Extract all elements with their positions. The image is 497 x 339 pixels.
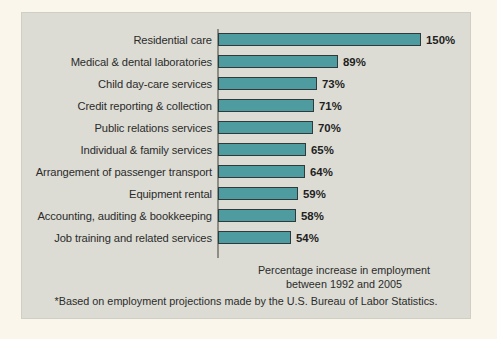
bar-value-label: 70% <box>318 118 341 138</box>
bar-row: Child day-care services 73% <box>22 73 470 95</box>
category-label: Equipment rental <box>22 183 212 205</box>
bar-value-label: 54% <box>296 228 319 248</box>
bar-value-label: 89% <box>343 52 366 72</box>
bar <box>218 209 296 222</box>
bar <box>218 231 291 244</box>
bar-row: Medical & dental laboratories 89% <box>22 51 470 73</box>
chart-caption: Percentage increase in employment betwee… <box>218 263 470 291</box>
category-label: Public relations services <box>22 117 212 139</box>
bar <box>218 55 338 68</box>
caption-line-2: between 1992 and 2005 <box>218 277 470 291</box>
bar-row: Equipment rental 59% <box>22 183 470 205</box>
bar-value-label: 73% <box>322 74 345 94</box>
category-label: Child day-care services <box>22 73 212 95</box>
category-label: Medical & dental laboratories <box>22 51 212 73</box>
category-label: Residential care <box>22 29 212 51</box>
bar-value-label: 58% <box>301 206 324 226</box>
bar-row: Job training and related services 54% <box>22 227 470 249</box>
bar <box>218 143 306 156</box>
bar-row: Public relations services 70% <box>22 117 470 139</box>
caption-line-1: Percentage increase in employment <box>218 263 470 277</box>
bar <box>218 165 305 178</box>
bar-value-label: 64% <box>310 162 333 182</box>
bar-row: Residential care 150% <box>22 29 470 51</box>
bar <box>218 33 421 46</box>
bar-value-label: 150% <box>426 30 455 50</box>
bar <box>218 77 317 90</box>
bar-row: Accounting, auditing & bookkeeping 58% <box>22 205 470 227</box>
bar-row: Arrangement of passenger transport 64% <box>22 161 470 183</box>
bar-value-label: 71% <box>319 96 342 116</box>
chart-figure: Residential care 150% Medical & dental l… <box>22 13 470 318</box>
category-label: Arrangement of passenger transport <box>22 161 212 183</box>
bar-value-label: 65% <box>311 140 334 160</box>
bar <box>218 187 298 200</box>
bar-row: Individual & family services 65% <box>22 139 470 161</box>
category-label: Credit reporting & collection <box>22 95 212 117</box>
bar <box>218 99 314 112</box>
category-label: Job training and related services <box>22 227 212 249</box>
bar <box>218 121 313 134</box>
bar-value-label: 59% <box>303 184 326 204</box>
bar-chart-plot-area: Residential care 150% Medical & dental l… <box>22 13 470 261</box>
category-label: Individual & family services <box>22 139 212 161</box>
category-label: Accounting, auditing & bookkeeping <box>22 205 212 227</box>
chart-footnote: *Based on employment projections made by… <box>22 295 470 307</box>
bar-row: Credit reporting & collection 71% <box>22 95 470 117</box>
